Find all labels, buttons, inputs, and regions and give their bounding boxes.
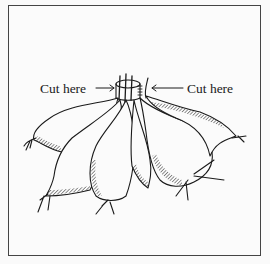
stem-collar <box>116 74 148 102</box>
arrow-right <box>152 85 183 91</box>
bulb-cluster-illustration <box>0 0 270 264</box>
cut-here-label-right: Cut here <box>187 82 233 96</box>
arrow-left <box>96 85 114 91</box>
cut-here-label-left: Cut here <box>40 82 86 96</box>
